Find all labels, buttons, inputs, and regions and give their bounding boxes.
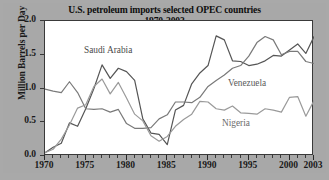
plot-area [44,20,313,155]
x-tick-label: 1975 [70,160,100,170]
series-label-nigeria: Nigeria [222,118,250,128]
x-tick-label: 1970 [29,160,59,170]
series-lines [45,21,314,156]
series-line-nigeria [45,79,314,153]
x-tick-label: 2003 [298,160,328,170]
chart-figure: U.S. petroleum imports selected OPEC cou… [0,0,329,180]
x-tick-label: 1985 [151,160,181,170]
series-label-venezuela: Venezuela [228,78,266,88]
x-tick-label: 1980 [111,160,141,170]
x-tick-label: 1990 [192,160,222,170]
series-label-saudi-arabia: Saudi Arabia [84,45,132,55]
x-tick-label: 1995 [233,160,263,170]
